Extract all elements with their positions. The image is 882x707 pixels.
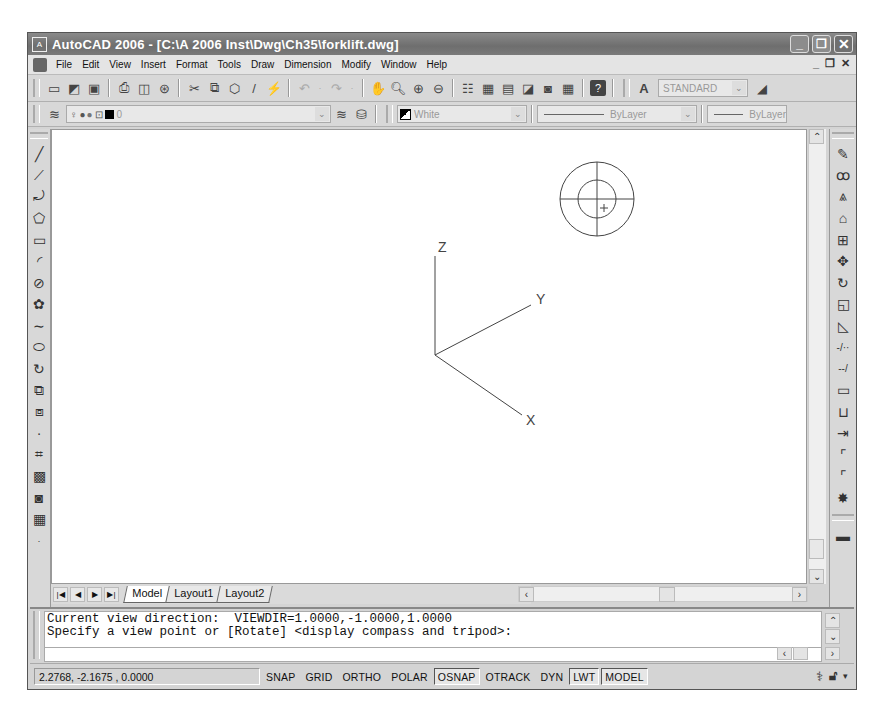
revision-cloud-icon[interactable]: ✿ bbox=[29, 294, 49, 315]
plot-icon[interactable]: ⎙ bbox=[116, 80, 132, 96]
grid-toggle[interactable]: GRID bbox=[301, 668, 336, 685]
menu-window[interactable]: Window bbox=[376, 59, 422, 70]
plot-preview-icon[interactable]: ◫ bbox=[136, 80, 152, 96]
copy-icon[interactable]: ⧉ bbox=[206, 80, 222, 96]
polygon-icon[interactable]: ⬠ bbox=[29, 208, 49, 229]
dimension-style-icon[interactable]: ◢ bbox=[754, 80, 770, 96]
document-icon[interactable] bbox=[33, 58, 47, 72]
polar-toggle[interactable]: POLAR bbox=[387, 668, 432, 685]
lock-icon[interactable]: 🔓︎ bbox=[829, 668, 837, 684]
scroll-left-button[interactable]: ‹ bbox=[519, 587, 534, 602]
markup-icon[interactable]: ◙ bbox=[540, 80, 556, 96]
trim-icon[interactable]: -/·· bbox=[833, 337, 853, 358]
scroll-up-button[interactable]: ⌃ bbox=[809, 129, 824, 144]
minimize-button[interactable]: _ bbox=[790, 35, 809, 53]
menu-draw[interactable]: Draw bbox=[246, 59, 279, 70]
command-scroll-thumb[interactable] bbox=[793, 647, 808, 660]
menu-dimension[interactable]: Dimension bbox=[279, 59, 336, 70]
menu-modify[interactable]: Modify bbox=[337, 59, 376, 70]
menu-tools[interactable]: Tools bbox=[213, 59, 246, 70]
dyn-toggle[interactable]: DYN bbox=[537, 668, 568, 685]
properties-icon[interactable]: ☷ bbox=[460, 80, 476, 96]
chevron-down-icon[interactable]: ⌄ bbox=[315, 107, 329, 121]
toolbar-grip[interactable] bbox=[623, 79, 630, 97]
command-window-grip[interactable] bbox=[33, 611, 40, 659]
command-scroll-left-button[interactable]: ‹ bbox=[777, 647, 792, 660]
vertical-scrollbar[interactable]: ⌃ ⌄ bbox=[808, 129, 826, 584]
quickcalc-icon[interactable]: ▦ bbox=[560, 80, 576, 96]
previous-tab-button[interactable]: ◀ bbox=[70, 587, 85, 602]
redo-dropdown-icon[interactable]: · bbox=[348, 80, 356, 96]
close-button[interactable]: ✕ bbox=[834, 35, 853, 53]
text-style-icon[interactable]: A bbox=[636, 80, 652, 96]
ortho-toggle[interactable]: ORTHO bbox=[338, 668, 385, 685]
toolbar-grip[interactable] bbox=[33, 105, 40, 123]
layer-select[interactable]: ♀ ● ● ⊡ 0 ⌄ bbox=[66, 105, 331, 123]
command-input[interactable] bbox=[44, 647, 822, 662]
doc-minimize-button[interactable]: _ bbox=[813, 57, 819, 70]
array-icon[interactable]: ⊞ bbox=[833, 229, 853, 250]
rectangle-icon[interactable]: ▭ bbox=[29, 229, 49, 250]
layer-previous-icon[interactable]: ⛁ bbox=[353, 106, 369, 122]
copy-object-icon[interactable]: ꝏ bbox=[833, 165, 853, 186]
polyline-icon[interactable]: ⤾ bbox=[29, 186, 49, 207]
cut-icon[interactable]: ✂ bbox=[186, 80, 202, 96]
menu-insert[interactable]: Insert bbox=[136, 59, 171, 70]
offset-icon[interactable]: ⌂ bbox=[833, 208, 853, 229]
ellipse-arc-icon[interactable]: ↻ bbox=[29, 358, 49, 379]
scroll-right-button[interactable]: › bbox=[792, 587, 807, 602]
drawing-area[interactable]: Z Y X bbox=[51, 129, 807, 584]
move-icon[interactable]: ✥ bbox=[833, 251, 853, 272]
zoom-window-icon[interactable]: ⊕ bbox=[410, 80, 426, 96]
construction-line-icon[interactable]: ⟋ bbox=[29, 165, 49, 186]
color-select[interactable]: White ⌄ bbox=[397, 105, 527, 123]
extend-icon[interactable]: --/ bbox=[833, 358, 853, 379]
tab-layout2[interactable]: Layout2 bbox=[216, 586, 273, 603]
menu-format[interactable]: Format bbox=[171, 59, 213, 70]
chevron-down-icon[interactable]: ⌄ bbox=[732, 81, 746, 95]
design-center-icon[interactable]: ▦ bbox=[480, 80, 496, 96]
point-icon[interactable]: · bbox=[29, 423, 49, 444]
spline-icon[interactable]: ∼ bbox=[29, 315, 49, 336]
text-style-select[interactable]: STANDARD ⌄ bbox=[658, 79, 748, 97]
osnap-toggle[interactable]: OSNAP bbox=[434, 668, 480, 685]
fillet-icon[interactable]: ⌜ bbox=[833, 466, 853, 487]
multiline-text-icon[interactable]: · bbox=[29, 530, 49, 551]
doc-close-button[interactable]: ✕ bbox=[841, 57, 850, 70]
last-tab-button[interactable]: ▶| bbox=[104, 587, 119, 602]
snap-toggle[interactable]: SNAP bbox=[262, 668, 299, 685]
stretch-icon[interactable]: ◺ bbox=[833, 315, 853, 336]
make-block-icon[interactable]: ⧈ bbox=[29, 401, 49, 422]
communication-center-icon[interactable]: ⚕ bbox=[816, 669, 823, 684]
rotate-icon[interactable]: ↻ bbox=[833, 272, 853, 293]
scroll-thumb[interactable] bbox=[659, 587, 675, 602]
toolbar-grip[interactable] bbox=[832, 132, 854, 139]
menu-file[interactable]: File bbox=[51, 59, 77, 70]
scroll-thumb[interactable] bbox=[809, 539, 824, 559]
toolbar-grip[interactable] bbox=[33, 79, 40, 97]
otrack-toggle[interactable]: OTRACK bbox=[482, 668, 535, 685]
break-at-point-icon[interactable]: ▭ bbox=[833, 380, 853, 401]
block-editor-icon[interactable]: ⚡ bbox=[266, 80, 282, 96]
first-tab-button[interactable]: |◀ bbox=[53, 587, 68, 602]
menu-help[interactable]: Help bbox=[422, 59, 453, 70]
insert-block-icon[interactable]: ⧉ bbox=[29, 380, 49, 401]
join-icon[interactable]: ⇥ bbox=[833, 423, 853, 444]
erase-icon[interactable]: ✎ bbox=[833, 143, 853, 164]
mirror-icon[interactable]: ⩓ bbox=[833, 186, 853, 207]
tab-layout1[interactable]: Layout1 bbox=[165, 586, 222, 603]
command-scroll-up-button[interactable]: ⌃ bbox=[825, 613, 840, 628]
sheet-set-icon[interactable]: ◪ bbox=[520, 80, 536, 96]
linetype-select[interactable]: ByLayer ⌄ bbox=[537, 105, 697, 123]
doc-restore-button[interactable]: ❐ bbox=[825, 57, 835, 70]
next-tab-button[interactable]: ▶ bbox=[87, 587, 102, 602]
status-menu-arrow-icon[interactable]: ▾ bbox=[843, 671, 848, 681]
chamfer-icon[interactable]: ⌜ bbox=[833, 444, 853, 465]
redo-icon[interactable]: ↷ bbox=[328, 80, 344, 96]
undo-icon[interactable]: ↶ bbox=[296, 80, 312, 96]
publish-icon[interactable]: ⊛ bbox=[156, 80, 172, 96]
chevron-down-icon[interactable]: ⌄ bbox=[511, 107, 525, 121]
zoom-previous-icon[interactable]: ⊖ bbox=[430, 80, 446, 96]
line-icon[interactable]: ╱ bbox=[29, 143, 49, 164]
chevron-down-icon[interactable]: ⌄ bbox=[681, 107, 695, 121]
